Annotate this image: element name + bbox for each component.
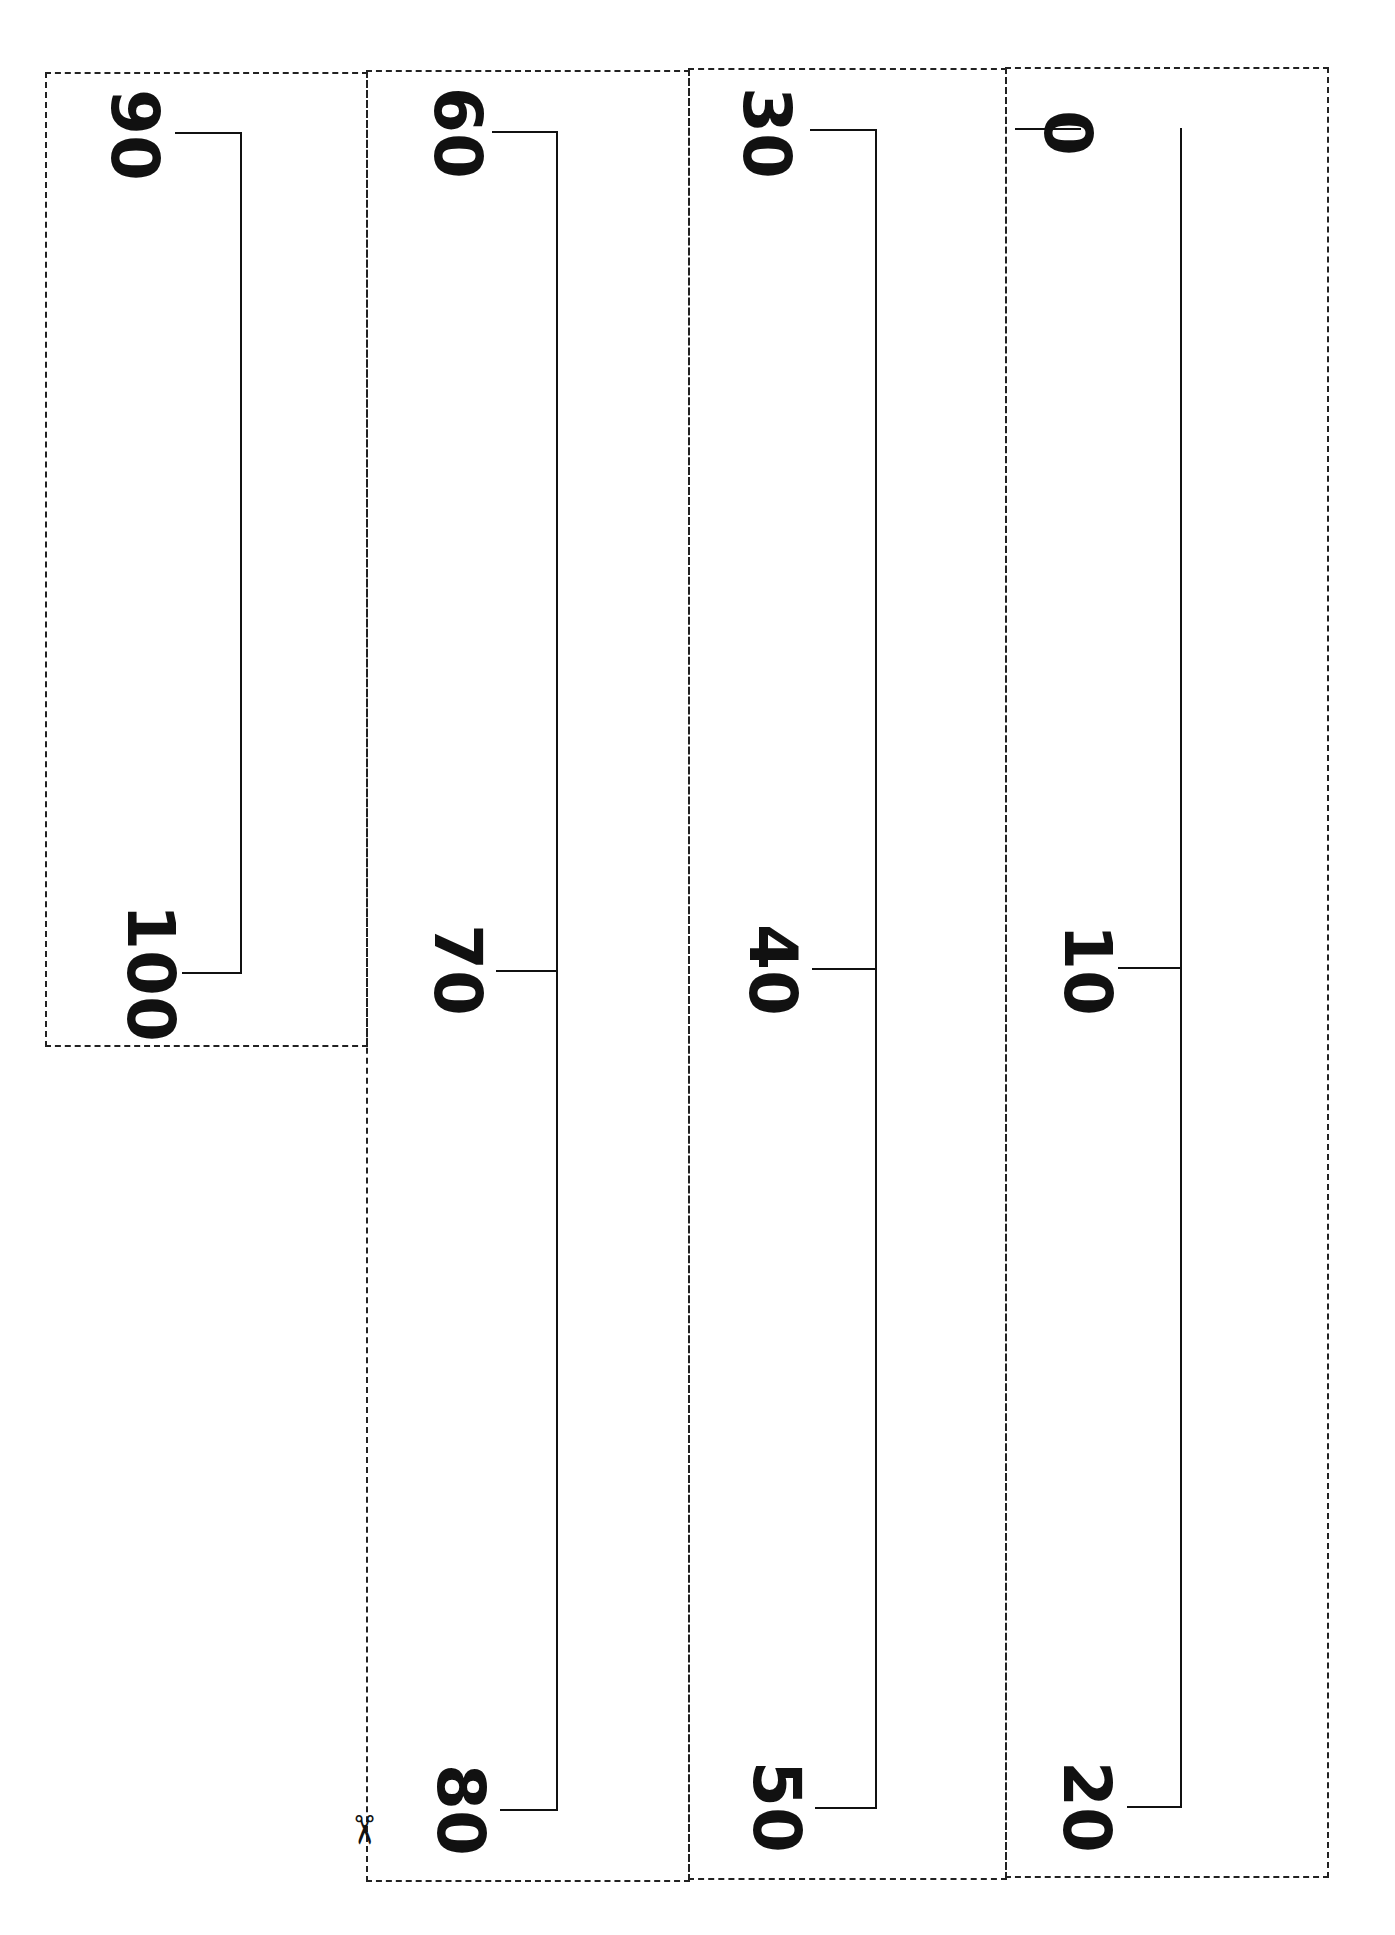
tick-100 [182, 972, 242, 974]
number-label-50: 50 [739, 1727, 809, 1887]
number-label-20: 20 [1049, 1727, 1119, 1887]
tick-40 [812, 968, 876, 970]
cut-strip-90-100 [45, 72, 368, 1047]
tick-10 [1118, 967, 1182, 969]
scissors-icon: ✂ [344, 1813, 384, 1847]
tick-0 [1015, 128, 1081, 130]
tick-80 [500, 1809, 558, 1811]
number-label-70: 70 [420, 890, 490, 1050]
number-label-30: 30 [729, 53, 799, 213]
tick-60 [492, 131, 558, 133]
tick-50 [815, 1807, 876, 1809]
tick-90 [175, 132, 242, 134]
number-label-90: 90 [97, 55, 167, 215]
number-line-90-100 [240, 132, 242, 974]
number-label-60: 60 [420, 53, 490, 213]
number-label-0: 0 [1030, 53, 1100, 213]
tick-70 [496, 970, 558, 972]
cut-strip-60-80 [366, 70, 690, 1882]
tick-20 [1127, 1806, 1182, 1808]
number-label-100: 100 [113, 883, 183, 1063]
number-label-10: 10 [1050, 890, 1120, 1050]
number-label-40: 40 [735, 890, 805, 1050]
number-label-80: 80 [423, 1730, 493, 1890]
tick-30 [810, 129, 876, 131]
